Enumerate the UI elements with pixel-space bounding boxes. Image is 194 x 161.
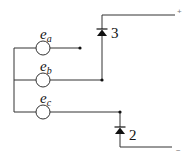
source-ea-label: ea <box>40 26 52 44</box>
circuit-diagram: ea eb ec 3 2 + − <box>0 0 194 161</box>
node-d2-dot <box>118 110 121 113</box>
positive-terminal-label: + <box>177 7 182 16</box>
diode-2-icon <box>115 127 126 134</box>
source-ec-label: ec <box>40 90 52 108</box>
node-d3-dot <box>100 78 103 81</box>
ea-open-end-dot <box>78 46 81 49</box>
negative-terminal-label: − <box>176 146 181 155</box>
diode-2-label: 2 <box>129 127 137 143</box>
diode-3-icon <box>97 29 108 36</box>
diode-3-label: 3 <box>111 25 119 41</box>
source-eb-label: eb <box>40 58 52 76</box>
